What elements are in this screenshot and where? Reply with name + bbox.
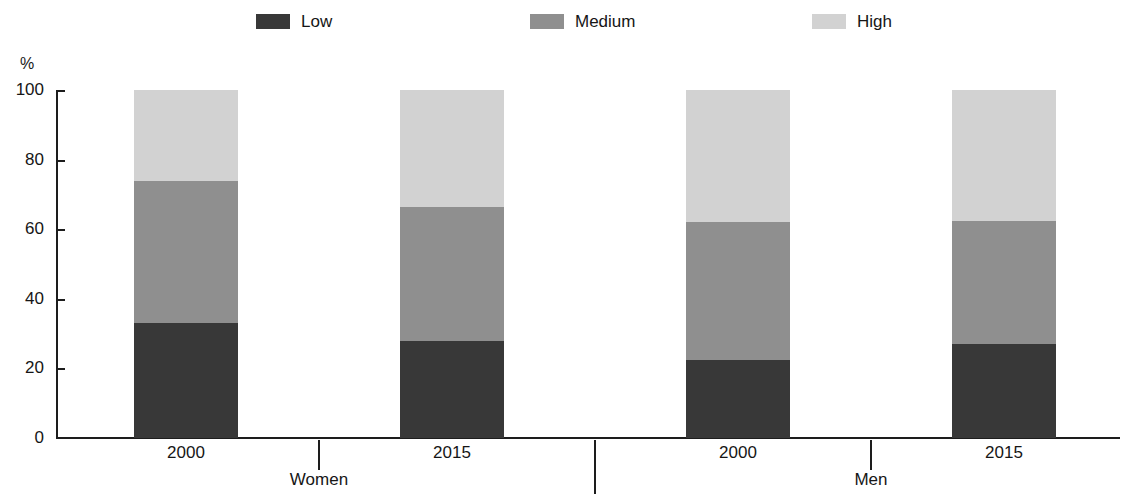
x-axis-group-label: Women bbox=[249, 471, 389, 488]
x-axis-group-separator bbox=[594, 440, 596, 494]
bar-stack bbox=[952, 90, 1056, 438]
bar-segment-low bbox=[686, 360, 790, 438]
x-axis-category-label: 2015 bbox=[392, 444, 512, 461]
bar-stack bbox=[686, 90, 790, 438]
x-axis-category-separator bbox=[870, 440, 872, 470]
bar-segment-low bbox=[400, 341, 504, 438]
stacked-bar-chart: Low Medium High % 100806040200 200020152… bbox=[0, 0, 1128, 494]
x-axis-category-separator bbox=[318, 440, 320, 470]
bar-stack bbox=[134, 90, 238, 438]
bar-segment-medium bbox=[686, 222, 790, 359]
x-axis-category-label: 2015 bbox=[944, 444, 1064, 461]
bar-segment-medium bbox=[952, 221, 1056, 345]
bar-segment-medium bbox=[400, 207, 504, 341]
bar-segment-medium bbox=[134, 181, 238, 324]
bar-segment-low bbox=[952, 344, 1056, 438]
bar-segment-high bbox=[134, 90, 238, 180]
bar-stack bbox=[400, 90, 504, 438]
bars-layer bbox=[0, 0, 1128, 494]
x-axis-category-row: 2000201520002015WomenMen bbox=[0, 439, 1128, 494]
x-axis-group-label: Men bbox=[801, 471, 941, 488]
bar-segment-high bbox=[400, 90, 504, 207]
x-axis-category-label: 2000 bbox=[678, 444, 798, 461]
bar-segment-high bbox=[686, 90, 790, 222]
x-axis-category-label: 2000 bbox=[126, 444, 246, 461]
bar-segment-high bbox=[952, 90, 1056, 221]
bar-segment-low bbox=[134, 323, 238, 438]
